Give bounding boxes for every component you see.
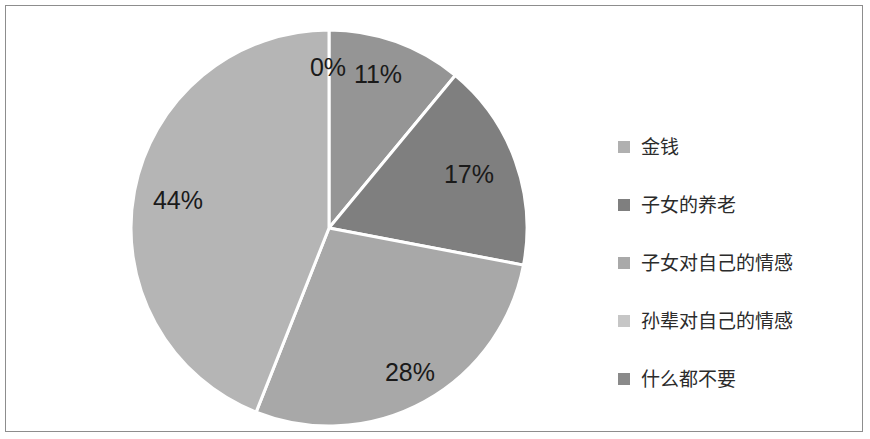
pie-slice-label: 44% xyxy=(153,186,203,214)
legend-swatch-nothing xyxy=(618,373,630,385)
chart-legend: 金钱 子女的养老 子女对自己的情感 孙辈对自己的情感 什么都不要 xyxy=(618,118,858,408)
pie-slice-label: 17% xyxy=(444,160,494,188)
chart-figure-frame: 11%17%28%44%0% 金钱 子女的养老 子女对自己的情感 孙辈对自己的情… xyxy=(5,5,863,432)
pie-chart-svg: 11%17%28%44%0% xyxy=(6,6,606,431)
pie-slice-label: 28% xyxy=(385,358,435,386)
legend-swatch-children-eldercare xyxy=(618,199,630,211)
pie-chart-area: 11%17%28%44%0% xyxy=(6,6,606,431)
pie-slice-label: 0% xyxy=(310,53,346,81)
legend-label-money: 金钱 xyxy=(641,138,679,157)
legend-swatch-grandchildren-affection xyxy=(618,315,630,327)
pie-slices-group xyxy=(131,30,527,426)
pie-slice-label: 11% xyxy=(354,60,402,88)
legend-item-grandchildren-affection[interactable]: 孙辈对自己的情感 xyxy=(618,292,858,350)
legend-label-children-affection: 子女对自己的情感 xyxy=(641,254,793,273)
legend-label-children-eldercare: 子女的养老 xyxy=(641,196,736,215)
legend-label-nothing: 什么都不要 xyxy=(641,370,736,389)
legend-item-money[interactable]: 金钱 xyxy=(618,118,858,176)
legend-swatch-children-affection xyxy=(618,257,630,269)
legend-item-children-eldercare[interactable]: 子女的养老 xyxy=(618,176,858,234)
legend-item-children-affection[interactable]: 子女对自己的情感 xyxy=(618,234,858,292)
legend-item-nothing[interactable]: 什么都不要 xyxy=(618,350,858,408)
legend-label-grandchildren-affection: 孙辈对自己的情感 xyxy=(641,312,793,331)
legend-swatch-money xyxy=(618,141,630,153)
